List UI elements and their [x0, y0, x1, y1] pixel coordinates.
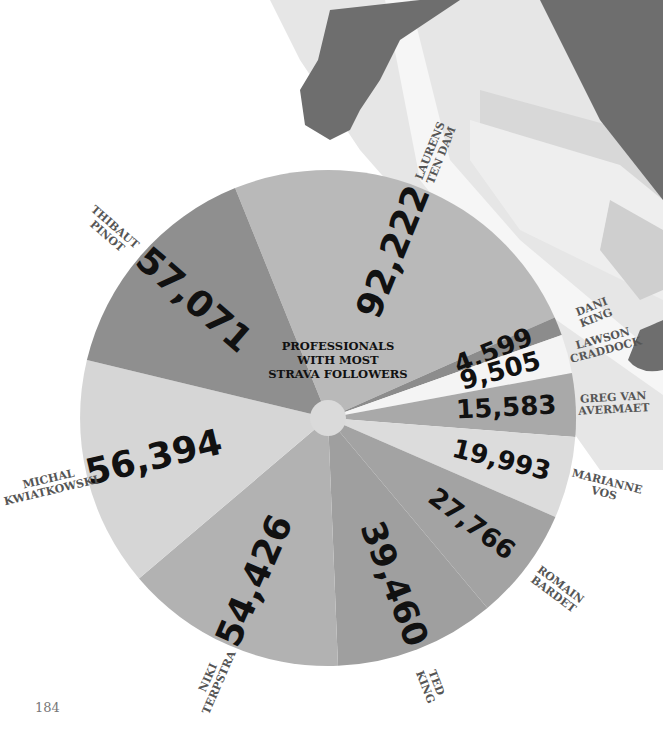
slice-name-label: LAWSONCRADDOCK — [566, 323, 644, 366]
slice-name-label: THIBAUTPINOT — [80, 203, 142, 261]
slice-name-label: MARIANNEVOS — [568, 467, 644, 509]
pie-chart: 92,222LAURENSTEN DAM4,599DANIKING9,505LA… — [0, 0, 663, 735]
page-number: 184 — [35, 700, 60, 715]
slice-name-label: DANIKING — [573, 295, 614, 331]
slice-name-label: GREG VANAVERMAET — [576, 389, 650, 418]
slice-name-label: TEDKING — [413, 664, 449, 705]
slice-name-label: LAURENSTEN DAM — [413, 120, 459, 186]
slice-name-label: ROMAINBARDET — [528, 563, 587, 616]
infographic-page: 92,222LAURENSTEN DAM4,599DANIKING9,505LA… — [0, 0, 663, 735]
pie-center-hub — [310, 400, 346, 436]
slice-name-label: NIKITERPSTRA — [189, 644, 239, 717]
slice-value-label: 15,583 — [455, 389, 557, 424]
